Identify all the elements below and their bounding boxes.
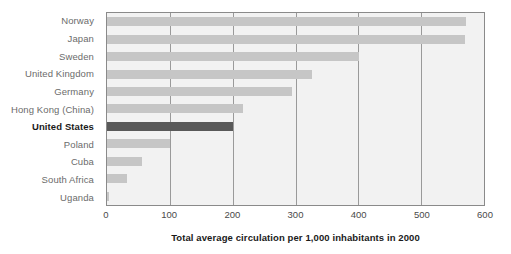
y-axis-label-hong-kong-china: Hong Kong (China) [11,104,94,115]
y-axis-category-labels: Norway Japan Sweden United Kingdom Germa… [0,12,100,206]
y-axis-label-row: Japan [0,30,100,48]
bar-row [107,83,484,100]
y-axis-label-row: Uganda [0,188,100,206]
bar-row [107,188,484,205]
bar-row [107,65,484,82]
y-axis-label-row: Poland [0,135,100,153]
x-tick-label: 100 [161,209,177,220]
y-axis-label-cuba: Cuba [71,156,94,167]
y-axis-label-germany: Germany [54,86,94,97]
y-axis-label-uganda: Uganda [60,192,94,203]
y-axis-label-row: Germany [0,83,100,101]
bar-row [107,13,484,30]
bar-norway [107,17,466,26]
bar-poland [107,139,170,148]
bar-south-africa [107,174,127,183]
y-axis-label-japan: Japan [68,33,94,44]
bar-united-kingdom [107,70,312,79]
y-axis-label-row: Hong Kong (China) [0,100,100,118]
plot-inner [107,13,484,205]
y-axis-label-sweden: Sweden [59,51,94,62]
x-tick-label: 400 [351,209,367,220]
x-tick-label: 300 [288,209,304,220]
plot-area [106,12,485,206]
y-axis-label-south-africa: South Africa [42,174,94,185]
y-axis-label-norway: Norway [61,15,94,26]
bar-uganda [107,192,109,201]
x-axis-tick-labels: 0100200300400500600 [106,209,485,223]
y-axis-label-row: Sweden [0,47,100,65]
x-axis-title: Total average circulation per 1,000 inha… [106,232,485,243]
y-axis-label-row: United Kingdom [0,65,100,83]
x-tick-label: 200 [224,209,240,220]
bar-united-states [107,122,233,131]
y-axis-label-poland: Poland [64,139,94,150]
y-axis-label-row: Cuba [0,153,100,171]
y-axis-label-united-kingdom: United Kingdom [25,68,94,79]
y-axis-label-row: United States [0,118,100,136]
bar-row [107,48,484,65]
bar-sweden [107,52,359,61]
bar-row [107,170,484,187]
x-tick-label: 0 [103,209,108,220]
bars-layer [107,13,484,205]
bar-row [107,30,484,47]
bar-hong-kong-china [107,104,243,113]
bar-row [107,118,484,135]
y-axis-label-row: Norway [0,12,100,30]
bar-cuba [107,157,142,166]
bar-japan [107,35,465,44]
x-tick-label: 600 [477,209,493,220]
bar-germany [107,87,292,96]
y-axis-label-united-states: United States [32,121,94,132]
horizontal-bar-chart: Norway Japan Sweden United Kingdom Germa… [0,0,511,254]
bar-row [107,135,484,152]
bar-row [107,100,484,117]
bar-row [107,153,484,170]
y-axis-label-row: South Africa [0,171,100,189]
x-tick-label: 500 [414,209,430,220]
